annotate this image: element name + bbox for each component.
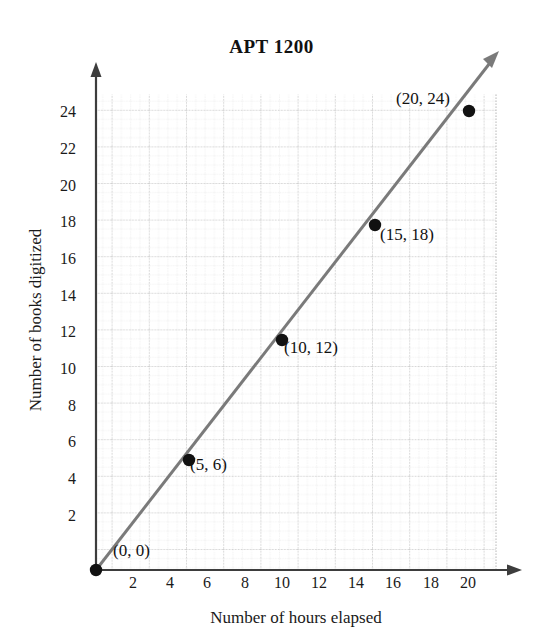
y-tick-label: 10 [42,360,76,378]
plot-canvas [0,0,543,641]
x-tick-label: 2 [116,574,150,592]
y-tick-label: 22 [42,140,76,158]
point-annotation-20-24: (20, 24) [396,89,450,109]
y-tick-label: 4 [42,470,76,488]
x-tick-label: 14 [339,574,373,592]
y-axis-title: Number of books digitized [26,140,46,500]
x-axis-title: Number of hours elapsed [96,608,496,628]
x-tick-label: 4 [153,574,187,592]
y-tick-label: 20 [42,177,76,195]
y-tick-label: 24 [42,103,76,121]
point-annotation-0-0: (0, 0) [113,541,150,561]
grid-lines [96,94,496,570]
y-tick-label: 18 [42,213,76,231]
x-tick-label: 12 [302,574,336,592]
x-tick-label: 10 [265,574,299,592]
y-tick-label: 14 [42,287,76,305]
point-annotation-10-12: (10, 12) [284,338,338,358]
x-tick-label: 8 [228,574,262,592]
chart-figure: APT 1200 [0,0,543,641]
x-tick-label: 18 [414,574,448,592]
y-tick-label: 6 [42,433,76,451]
y-tick-label: 16 [42,250,76,268]
data-point-marker [90,564,102,576]
y-tick-label: 2 [42,507,76,525]
point-annotation-15-18: (15, 18) [380,225,434,245]
x-tick-label: 16 [376,574,410,592]
y-tick-label: 8 [42,397,76,415]
x-tick-label: 20 [451,574,485,592]
y-tick-label: 12 [42,323,76,341]
x-tick-label: 6 [190,574,224,592]
data-point-marker [463,105,475,117]
point-annotation-5-6: (5, 6) [190,455,227,475]
